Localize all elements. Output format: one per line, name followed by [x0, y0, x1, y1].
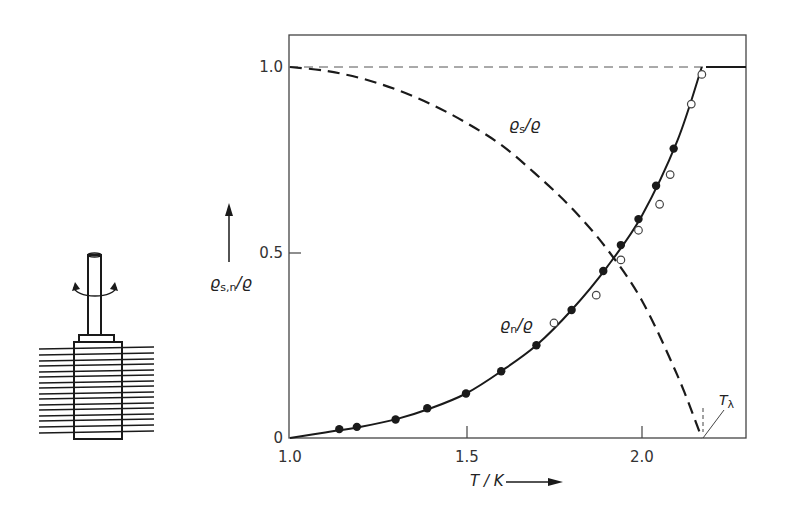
open-data-point	[617, 256, 625, 264]
collar	[79, 335, 114, 342]
disc-lines	[39, 347, 154, 433]
y-tick-label: 0.5	[259, 244, 283, 262]
y-tick-label: 1.0	[259, 58, 283, 76]
open-data-points	[550, 71, 705, 327]
torsion-rod	[88, 255, 101, 335]
x-tick-label: 2.0	[630, 448, 654, 466]
svg-text:Tλ: Tλ	[719, 392, 735, 411]
filled-data-point	[423, 404, 431, 412]
x-axis-label: T / K	[470, 472, 563, 490]
right-arrow-icon	[548, 478, 563, 486]
filled-data-point	[669, 144, 677, 152]
filled-data-point	[599, 267, 607, 275]
filled-data-point	[353, 423, 361, 431]
y-tick-label: 0	[273, 429, 283, 447]
x-tick-label: 1.5	[455, 448, 479, 466]
filled-data-points	[335, 144, 678, 433]
y-axis-label: ϱs,n/ϱ	[210, 203, 252, 294]
filled-data-point	[634, 215, 642, 223]
filled-data-point	[462, 389, 470, 397]
filled-data-point	[567, 306, 575, 314]
filled-data-point	[497, 367, 505, 375]
open-data-point	[687, 100, 695, 108]
open-data-point	[635, 226, 643, 234]
rho-n-label: ϱn/ϱ	[500, 315, 533, 336]
open-data-point	[666, 171, 674, 179]
rotation-arrow-icon	[74, 287, 116, 296]
torsion-pendulum-apparatus	[39, 253, 154, 439]
axis-ticks	[289, 253, 642, 438]
rho-s-curve	[290, 67, 702, 438]
figure: 1.0 1.5 2.0 0 0.5 1.0 ϱs,n/ϱ T / K ϱs/ϱ …	[0, 0, 786, 511]
filled-data-point	[532, 341, 540, 349]
rho-n-curve	[290, 67, 702, 438]
open-data-point	[656, 200, 664, 208]
disc-stack	[74, 342, 122, 439]
open-data-point	[592, 291, 600, 299]
open-data-point	[698, 71, 706, 79]
filled-data-point	[391, 415, 399, 423]
open-data-point	[550, 319, 558, 327]
tick-labels: 1.0 1.5 2.0 0 0.5 1.0	[259, 58, 654, 466]
filled-data-point	[617, 241, 625, 249]
svg-text:T / K: T / K	[470, 472, 505, 490]
svg-text:ϱs,n/ϱ: ϱs,n/ϱ	[210, 273, 252, 294]
t-lambda-annotation: Tλ	[703, 392, 735, 438]
x-tick-label: 1.0	[278, 448, 302, 466]
filled-data-point	[335, 425, 343, 433]
rho-s-label: ϱs/ϱ	[509, 115, 540, 136]
filled-data-point	[652, 182, 660, 190]
up-arrow-icon	[225, 203, 233, 216]
